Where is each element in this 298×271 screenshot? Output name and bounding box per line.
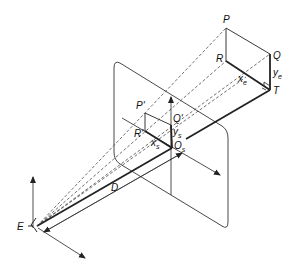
label-E: E — [17, 222, 24, 232]
label-Q-prime: Q' — [173, 114, 183, 124]
label-P-prime: P' — [136, 101, 145, 111]
view-axis — [37, 90, 270, 226]
label-ye-sub: e — [278, 73, 282, 80]
label-ye: ye — [273, 68, 282, 80]
diagram-lines — [0, 0, 298, 271]
label-Q: Q — [273, 51, 281, 61]
label-Os-base: O — [174, 140, 182, 151]
eye-icon — [28, 218, 37, 232]
label-T: T — [273, 86, 279, 96]
label-xe-sub: e — [243, 79, 247, 86]
label-D: D — [111, 183, 118, 193]
label-Os: Os — [174, 141, 185, 153]
label-ys: ys — [173, 127, 182, 139]
label-R: R — [216, 54, 223, 64]
label-Os-sub: s — [182, 146, 186, 153]
label-xs: xs — [151, 138, 160, 150]
label-xe: xe — [238, 74, 247, 86]
projection-rays — [37, 28, 270, 226]
label-R-prime: R' — [134, 129, 143, 139]
label-P: P — [223, 15, 230, 25]
label-ys-sub: s — [178, 132, 182, 139]
label-xs-sub: s — [156, 143, 160, 150]
screen-axes — [122, 97, 220, 195]
eye-axes — [33, 177, 85, 258]
perspective-diagram: P R Q T ye xe P' Q' R' ys xs Os D E — [0, 0, 298, 271]
